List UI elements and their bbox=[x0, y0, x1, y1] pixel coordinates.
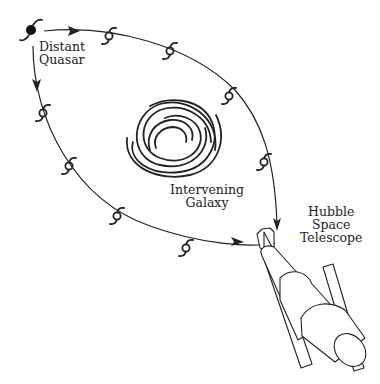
galaxy-spiral-icon bbox=[127, 100, 221, 177]
arrow-upper-start bbox=[68, 26, 80, 36]
telescope-label: Hubble Space Telescope bbox=[300, 205, 363, 244]
lensed-image-icon bbox=[102, 28, 116, 44]
quasar-label: Distant Quasar bbox=[39, 40, 85, 66]
lensed-image-icon bbox=[179, 240, 193, 256]
quasar-label-line2: Quasar bbox=[39, 53, 85, 66]
galaxy-label: Intervening Galaxy bbox=[170, 183, 244, 209]
lensed-image-icon bbox=[36, 105, 50, 121]
galaxy-label-line2: Galaxy bbox=[170, 196, 244, 209]
lower-light-path bbox=[33, 46, 275, 245]
lensed-image-icon bbox=[62, 158, 76, 174]
telescope-label-line3: Telescope bbox=[300, 231, 363, 244]
lensed-image-icon bbox=[222, 88, 236, 104]
lensed-image-icon bbox=[110, 208, 124, 224]
hubble-telescope-icon bbox=[257, 228, 372, 373]
quasar-icon bbox=[20, 20, 42, 41]
